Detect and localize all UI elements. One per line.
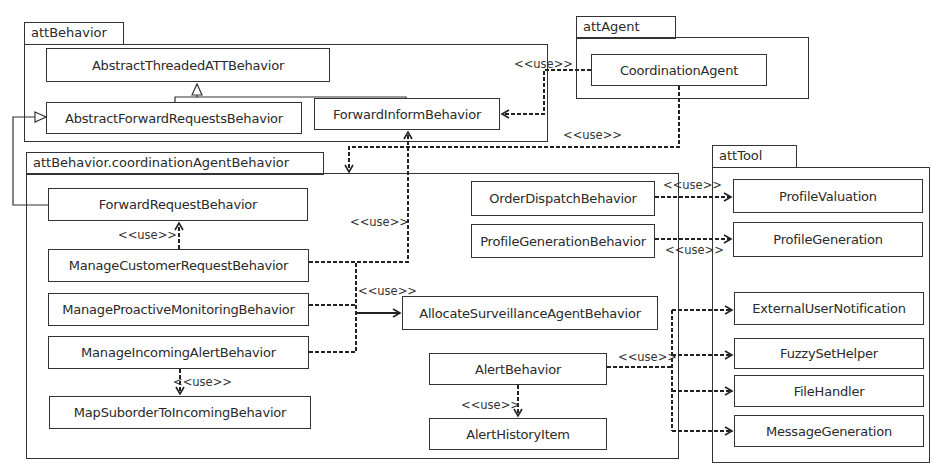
use-label-alert-to-history: <<use>> [461, 398, 520, 412]
class-file-handler[interactable]: FileHandler [734, 375, 924, 407]
package-tab-coordination: attBehavior.coordinationAgentBehavior [26, 152, 324, 175]
use-label-manage-to-allocate: <<use>> [358, 284, 417, 298]
class-coordination-agent[interactable]: CoordinationAgent [591, 54, 767, 86]
package-tab-atttool: attTool [712, 145, 797, 168]
use-label-profilegen: <<use>> [665, 243, 724, 257]
class-external-user-notification[interactable]: ExternalUserNotification [734, 292, 924, 325]
class-abstract-threaded-att-behavior[interactable]: AbstractThreadedATTBehavior [46, 48, 330, 82]
class-message-generation[interactable]: MessageGeneration [734, 415, 924, 447]
class-alert-history-item[interactable]: AlertHistoryItem [429, 418, 607, 450]
class-fuzzy-set-helper[interactable]: FuzzySetHelper [734, 338, 924, 369]
class-order-dispatch-behavior[interactable]: OrderDispatchBehavior [471, 181, 655, 216]
package-tab-attagent: attAgent [576, 16, 676, 39]
class-forward-request-behavior[interactable]: ForwardRequestBehavior [48, 188, 308, 221]
class-profile-generation[interactable]: ProfileGeneration [733, 222, 923, 257]
class-map-suborder-to-incoming-behavior[interactable]: MapSuborderToIncomingBehavior [49, 396, 311, 429]
use-label-customer-to-forward: <<use>> [118, 228, 177, 242]
use-label-alert-to-tools: <<use>> [618, 350, 677, 364]
class-forward-inform-behavior[interactable]: ForwardInformBehavior [314, 98, 500, 130]
use-label-incoming-to-map: <<use>> [173, 375, 232, 389]
class-abstract-forward-requests-behavior[interactable]: AbstractForwardRequestsBehavior [46, 102, 302, 134]
class-profile-valuation[interactable]: ProfileValuation [733, 179, 923, 213]
class-allocate-surveillance-agent-behavior[interactable]: AllocateSurveillanceAgentBehavior [402, 296, 658, 330]
use-label-agent-to-package: <<use>> [563, 128, 622, 142]
use-label-customer-to-inform: <<use>> [350, 215, 409, 229]
class-manage-incoming-alert-behavior[interactable]: ManageIncomingAlertBehavior [48, 336, 309, 369]
class-manage-proactive-monitoring-behavior[interactable]: ManageProactiveMonitoringBehavior [48, 293, 309, 326]
use-label-dispatch-to-valuation: <<use>> [663, 178, 722, 192]
use-label-agent-to-inform: <<use>> [514, 57, 573, 71]
class-alert-behavior[interactable]: AlertBehavior [429, 353, 607, 385]
class-manage-customer-request-behavior[interactable]: ManageCustomerRequestBehavior [48, 249, 309, 282]
class-profile-generation-behavior[interactable]: ProfileGenerationBehavior [471, 224, 655, 258]
package-tab-attbehavior: attBehavior [24, 22, 124, 45]
